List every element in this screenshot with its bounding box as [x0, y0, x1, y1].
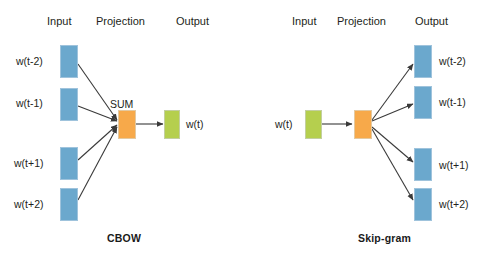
cbow-input-box-3 — [60, 188, 78, 221]
cbow-projection-box — [118, 110, 136, 139]
cbow-input-box-1 — [60, 88, 78, 121]
skipgram-input-label-0: w(t) — [275, 119, 293, 130]
cbow-input-label-1: w(t-1) — [16, 98, 43, 109]
skipgram-output-box-3 — [414, 188, 432, 221]
cbow-header-projection: Projection — [96, 16, 145, 27]
skipgram-header-projection: Projection — [337, 16, 386, 27]
skipgram-output-box-0 — [414, 45, 432, 78]
skipgram-output-label-0: w(t-2) — [439, 56, 466, 67]
cbow-input-label-3: w(t+2) — [14, 199, 43, 210]
cbow-input-label-0: w(t-2) — [16, 56, 43, 67]
cbow-input-box-0 — [60, 45, 78, 78]
word2vec-architecture-diagram: Input Projection Output w(t-2) w(t-1) w(… — [0, 0, 496, 265]
arrow-layer — [0, 0, 496, 265]
skipgram-input-box-0 — [305, 110, 322, 139]
skipgram-title: Skip-gram — [358, 233, 411, 244]
skipgram-output-label-1: w(t-1) — [439, 97, 466, 108]
cbow-output-label-0: w(t) — [186, 119, 204, 130]
skipgram-output-box-1 — [414, 86, 432, 119]
skipgram-output-box-2 — [414, 148, 432, 181]
cbow-input-label-2: w(t+1) — [14, 158, 43, 169]
cbow-header-input: Input — [47, 16, 71, 27]
cbow-title: CBOW — [107, 233, 141, 244]
cbow-input-box-2 — [60, 147, 78, 180]
skipgram-output-label-2: w(t+1) — [439, 160, 468, 171]
cbow-sum-label: SUM — [110, 99, 133, 110]
skipgram-header-output: Output — [415, 16, 448, 27]
skipgram-header-input: Input — [292, 16, 316, 27]
cbow-output-box-0 — [164, 110, 180, 139]
cbow-header-output: Output — [176, 16, 209, 27]
skipgram-output-label-3: w(t+2) — [439, 199, 468, 210]
skipgram-projection-box — [354, 110, 372, 139]
